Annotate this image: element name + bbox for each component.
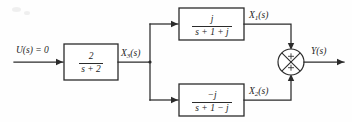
upper-output-signal-argument: (s) bbox=[258, 10, 268, 20]
lower-branch-transfer-function: −j s + 1 − j bbox=[190, 91, 234, 114]
scan-artifact bbox=[12, 7, 21, 12]
intermediate-signal-label: X3(s) bbox=[121, 49, 140, 60]
diagram-canvas bbox=[0, 0, 352, 122]
output-signal-label: Y(s) bbox=[311, 47, 326, 57]
forward-block-denominator: s + 2 bbox=[74, 64, 108, 75]
output-wire bbox=[304, 59, 344, 65]
forward-block-transfer-function: 2 s + 2 bbox=[74, 52, 108, 75]
forward-block-numerator: 2 bbox=[74, 52, 108, 63]
lower-branch-wire bbox=[150, 97, 178, 103]
forward-to-branch-wire bbox=[118, 60, 152, 63]
block-diagram: U(s) = 0 2 s + 2 X3(s) j s + 1 + j −j s … bbox=[0, 0, 352, 122]
upper-branch-transfer-function: j s + 1 + j bbox=[190, 15, 234, 38]
upper-output-wire bbox=[244, 24, 294, 50]
lower-branch-numerator: −j bbox=[190, 91, 234, 102]
intermediate-signal-argument: (s) bbox=[130, 48, 140, 58]
input-signal-label: U(s) = 0 bbox=[16, 46, 49, 56]
lower-branch-denominator: s + 1 − j bbox=[190, 103, 234, 114]
input-wire bbox=[14, 59, 63, 65]
lower-output-signal-argument: (s) bbox=[258, 86, 268, 96]
upper-branch-denominator: s + 1 + j bbox=[190, 27, 234, 38]
upper-output-signal-label: X1(s) bbox=[249, 11, 268, 22]
lower-output-signal-label: X2(s) bbox=[249, 87, 268, 98]
upper-branch-wire bbox=[150, 21, 178, 27]
summing-junction-symbol bbox=[278, 49, 304, 75]
upper-branch-numerator: j bbox=[190, 15, 234, 26]
scan-artifact bbox=[24, 11, 30, 15]
